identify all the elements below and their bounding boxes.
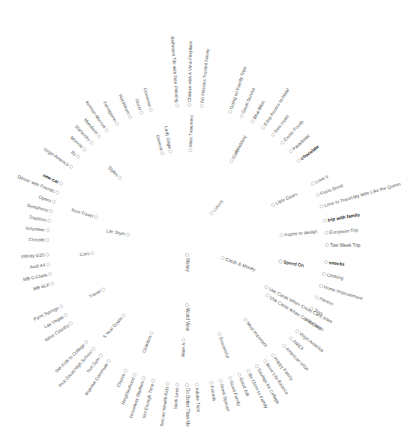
node-circle-icon[interactable] xyxy=(240,115,243,118)
node-circle-icon[interactable] xyxy=(218,333,221,336)
branch-node[interactable]: World View xyxy=(185,303,190,331)
node-circle-icon[interactable] xyxy=(229,377,232,380)
node-circle-icon[interactable] xyxy=(107,359,110,362)
node-circle-icon[interactable] xyxy=(45,239,48,242)
root-node[interactable]: Money xyxy=(185,253,190,272)
node-circle-icon[interactable] xyxy=(271,203,274,206)
branch-node[interactable]: Successful xyxy=(218,333,231,359)
leaf-node[interactable]: Fitness xyxy=(315,296,335,307)
node-circle-icon[interactable] xyxy=(310,307,313,310)
node-circle-icon[interactable] xyxy=(221,256,224,259)
node-circle-icon[interactable] xyxy=(142,377,145,380)
node-circle-icon[interactable] xyxy=(325,243,328,246)
node-circle-icon[interactable] xyxy=(280,233,283,236)
branch-node[interactable]: Most Treatment xyxy=(188,114,194,151)
node-circle-icon[interactable] xyxy=(51,282,54,285)
node-circle-icon[interactable] xyxy=(161,152,164,155)
node-circle-icon[interactable] xyxy=(297,159,300,162)
leaf-node[interactable]: trip with family xyxy=(323,212,360,223)
node-circle-icon[interactable] xyxy=(195,383,198,386)
leaf-node[interactable]: Volunteer xyxy=(25,226,49,233)
node-circle-icon[interactable] xyxy=(102,288,105,291)
node-circle-icon[interactable] xyxy=(85,341,88,344)
node-circle-icon[interactable] xyxy=(91,252,94,255)
node-circle-icon[interactable] xyxy=(324,260,327,263)
leaf-node[interactable]: Work Less xyxy=(173,383,180,409)
node-circle-icon[interactable] xyxy=(185,303,188,306)
node-circle-icon[interactable] xyxy=(92,347,95,350)
leaf-node[interactable]: Crossfit xyxy=(28,237,48,243)
node-circle-icon[interactable] xyxy=(319,284,322,287)
node-circle-icon[interactable] xyxy=(230,160,233,163)
leaf-node[interactable]: Virgin America xyxy=(43,146,73,168)
branch-node[interactable]: Lady Gaga xyxy=(164,126,173,153)
branch-node[interactable]: Cars xyxy=(79,251,93,257)
node-circle-icon[interactable] xyxy=(188,103,191,106)
leaf-node[interactable]: Adobe Trips xyxy=(194,383,201,413)
leaf-node[interactable]: Improve Commute xyxy=(84,359,110,396)
leaf-node[interactable]: Infinity G35 xyxy=(21,252,49,259)
leaf-node[interactable]: European Trip xyxy=(325,227,359,235)
node-circle-icon[interactable] xyxy=(185,253,188,256)
node-circle-icon[interactable] xyxy=(281,141,284,144)
leaf-node[interactable]: Symphony xyxy=(27,203,53,213)
node-circle-icon[interactable] xyxy=(150,331,153,334)
node-circle-icon[interactable] xyxy=(272,133,275,136)
node-circle-icon[interactable] xyxy=(289,337,292,340)
node-circle-icon[interactable] xyxy=(289,150,292,153)
leaf-node[interactable]: Two Week Trip xyxy=(325,243,360,248)
node-circle-icon[interactable] xyxy=(176,104,179,107)
node-circle-icon[interactable] xyxy=(323,219,326,222)
node-circle-icon[interactable] xyxy=(247,369,250,372)
node-circle-icon[interactable] xyxy=(265,286,268,289)
branch-node[interactable]: Most Important xyxy=(244,318,269,348)
node-circle-icon[interactable] xyxy=(189,148,192,151)
node-circle-icon[interactable] xyxy=(200,104,203,107)
leaf-node[interactable]: Triathlon xyxy=(28,215,50,223)
leaf-node[interactable]: MB SLK xyxy=(33,282,54,292)
node-circle-icon[interactable] xyxy=(279,260,282,263)
branch-node[interactable]: Little Gears xyxy=(271,191,298,206)
node-circle-icon[interactable] xyxy=(229,110,232,113)
branch-node[interactable]: Geneva xyxy=(155,134,164,155)
node-circle-icon[interactable] xyxy=(140,111,143,114)
node-circle-icon[interactable] xyxy=(77,155,80,158)
node-circle-icon[interactable] xyxy=(266,294,269,297)
leaf-node[interactable]: Bathroom Tile with Nice Flooring xyxy=(170,36,180,107)
node-circle-icon[interactable] xyxy=(122,314,125,317)
leaf-node[interactable]: Feels Great xyxy=(316,183,344,197)
node-circle-icon[interactable] xyxy=(169,150,172,153)
node-circle-icon[interactable] xyxy=(126,233,129,236)
leaf-node[interactable]: Great Spouse xyxy=(219,379,231,412)
node-circle-icon[interactable] xyxy=(118,176,121,179)
node-circle-icon[interactable] xyxy=(185,383,188,386)
leaf-node[interactable]: Audi A4 xyxy=(29,262,50,269)
node-circle-icon[interactable] xyxy=(60,305,63,308)
leaf-node[interactable]: No Hassles Trusted Nanny xyxy=(199,47,210,107)
branch-node[interactable]: Life Style xyxy=(106,228,130,236)
branch-node[interactable]: Luxury xyxy=(210,198,224,215)
node-circle-icon[interactable] xyxy=(219,379,222,382)
node-circle-icon[interactable] xyxy=(97,135,100,138)
node-circle-icon[interactable] xyxy=(255,365,258,368)
leaf-node[interactable]: Savings for College xyxy=(255,365,280,405)
node-circle-icon[interactable] xyxy=(69,322,72,325)
leaf-node[interactable]: Love it xyxy=(311,174,329,185)
leaf-node[interactable]: chocolate xyxy=(297,144,320,163)
node-circle-icon[interactable] xyxy=(50,210,53,213)
node-circle-icon[interactable] xyxy=(47,263,50,266)
node-circle-icon[interactable] xyxy=(283,344,286,347)
leaf-node[interactable]: snacks xyxy=(324,260,345,267)
node-circle-icon[interactable] xyxy=(311,182,314,185)
node-circle-icon[interactable] xyxy=(124,369,127,372)
leaf-node[interactable]: MB C-Class xyxy=(23,272,52,282)
leaf-node[interactable]: Secure Wealth Kids xyxy=(159,382,170,427)
node-circle-icon[interactable] xyxy=(152,379,155,382)
leaf-node[interactable]: Love to Travel My Wife Like the Queen xyxy=(320,181,402,208)
node-circle-icon[interactable] xyxy=(83,148,86,151)
node-circle-icon[interactable] xyxy=(64,313,67,316)
branch-node[interactable]: Non-Travel xyxy=(71,207,98,218)
leaf-node[interactable]: Use Cards When Credit Card Sites xyxy=(265,286,334,325)
leaf-node[interactable]: Converse xyxy=(142,87,152,111)
branch-node[interactable]: Wide A xyxy=(181,338,187,357)
